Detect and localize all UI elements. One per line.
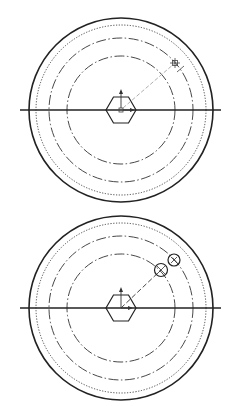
dimension-tick bbox=[177, 66, 184, 72]
technical-drawing-canvas bbox=[0, 0, 231, 406]
arrow-up-icon bbox=[119, 287, 123, 292]
top-view bbox=[20, 18, 221, 202]
arrow-up-icon bbox=[119, 89, 123, 94]
leader-line bbox=[121, 270, 161, 308]
bottom-view bbox=[20, 216, 221, 400]
hole-marker-icon bbox=[155, 264, 168, 277]
hole-marker-icon bbox=[168, 254, 180, 266]
arrow-right-icon bbox=[128, 306, 133, 310]
arrow-right-icon bbox=[130, 108, 135, 112]
